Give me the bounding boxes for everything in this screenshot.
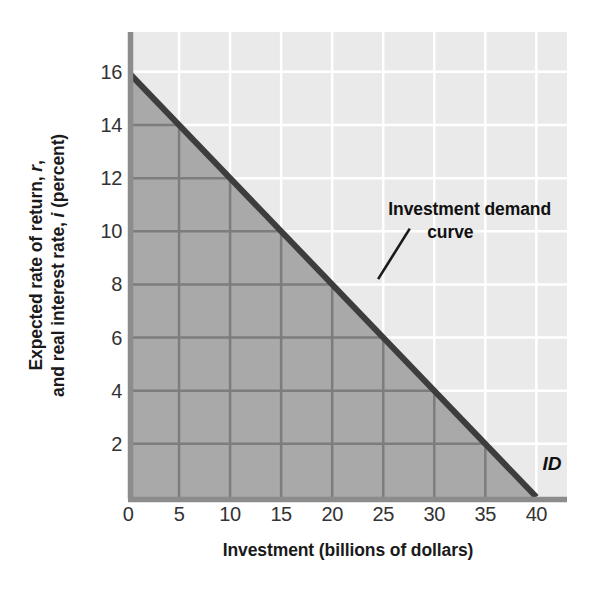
x-axis-tick-label: 5 bbox=[156, 503, 202, 526]
x-axis-tick-label: 40 bbox=[513, 503, 559, 526]
callout-text-line1: Investment demand bbox=[388, 199, 551, 219]
x-axis-tick-label: 20 bbox=[309, 503, 355, 526]
investment-demand-chart: Expected rate of return, r, and real int… bbox=[0, 0, 601, 594]
x-axis-tick-label: 0 bbox=[105, 503, 151, 526]
x-axis-label: Investment (billions of dollars) bbox=[128, 540, 568, 561]
x-axis-tick-label: 15 bbox=[258, 503, 304, 526]
callout-text-line2: curve bbox=[427, 222, 474, 242]
x-axis-tick-label: 25 bbox=[360, 503, 406, 526]
x-axis-tick-label: 35 bbox=[462, 503, 508, 526]
x-axis-tick-label: 30 bbox=[411, 503, 457, 526]
x-axis-tick-label: 10 bbox=[207, 503, 253, 526]
x-axis-tick-labels: 0510152025303540 bbox=[0, 503, 601, 533]
id-curve-label: ID bbox=[542, 453, 561, 474]
